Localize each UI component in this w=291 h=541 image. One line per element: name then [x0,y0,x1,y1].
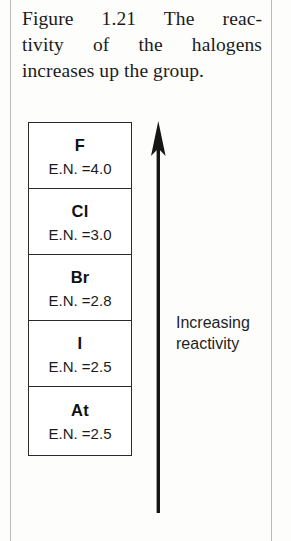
page-column-rule-left [10,0,11,541]
figure-caption-line-2: tivity of the halogens [22,32,262,58]
halogen-cell-chlorine: Cl E.N. =3.0 [29,189,131,255]
figure-panel: Figure 1.21 The reac- tivity of the halo… [0,0,291,541]
figure-caption-line-3: increases up the group. [22,58,262,84]
electronegativity-value: E.N. =4.0 [49,159,112,179]
halogen-table: F E.N. =4.0 Cl E.N. =3.0 Br E.N. =2.8 I … [28,122,132,456]
halogen-cell-bromine: Br E.N. =2.8 [29,255,131,321]
figure-caption: Figure 1.21 The reac- tivity of the halo… [22,6,262,84]
element-symbol: At [71,400,89,420]
electronegativity-value: E.N. =3.0 [49,225,112,245]
element-symbol: I [78,333,83,353]
electronegativity-value: E.N. =2.8 [49,291,112,311]
element-symbol: F [75,135,85,155]
halogen-cell-fluorine: F E.N. =4.0 [29,123,131,189]
element-symbol: Br [71,267,90,287]
element-symbol: Cl [72,201,89,221]
halogen-cell-iodine: I E.N. =2.5 [29,321,131,387]
up-arrow-icon [140,118,180,518]
arrow-label: Increasing reactivity [176,312,281,354]
figure-caption-line-1: Figure 1.21 The reac- [22,6,262,32]
page-column-rule-right [271,0,272,541]
electronegativity-value: E.N. =2.5 [49,424,112,444]
arrow-label-line-1: Increasing [176,312,281,333]
electronegativity-value: E.N. =2.5 [49,357,112,377]
increasing-reactivity-arrow [140,118,180,518]
arrow-label-line-2: reactivity [176,333,281,354]
halogen-cell-astatine: At E.N. =2.5 [29,387,131,455]
